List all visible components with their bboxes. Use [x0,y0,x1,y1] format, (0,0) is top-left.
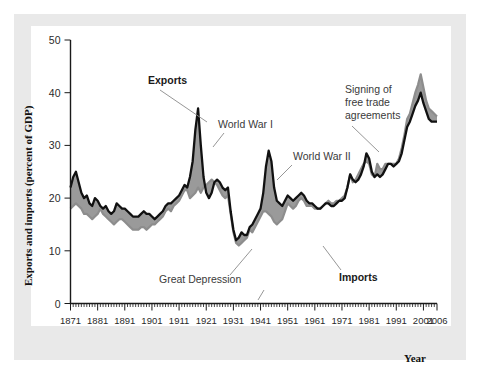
x-tick-label: 1971 [331,315,352,326]
x-tick-label: 1891 [114,315,135,326]
y-tick-label: 50 [49,34,61,46]
y-tick-label: 20 [49,192,61,204]
chart-svg: 01020304050 1871188118911901191119211931… [0,0,488,384]
annotation-free-trade-line1: Signing of [345,83,392,95]
x-tick-label: 1981 [359,315,380,326]
leader-free-trade [352,126,379,152]
leader-ww2 [277,165,292,180]
y-axis-title: Exports and imports (percent of GDP) [22,106,34,286]
annotation-free-trade-line2: free trade [345,96,390,108]
x-axis-title: Year [404,352,426,364]
y-tick-label: 0 [55,298,61,310]
x-tick-label: 1871 [60,315,81,326]
y-tick-label: 40 [49,87,61,99]
x-tick-label: 1961 [304,315,325,326]
annotation-ww1: World War I [218,118,273,130]
leader-great-depression [230,249,252,275]
leader-baseline-mark [258,290,264,300]
y-tick-label: 30 [49,139,61,151]
y-tick-group: 01020304050 [49,34,71,310]
x-tick-label: 1931 [223,315,244,326]
annotation-imports: Imports [339,271,378,283]
x-tick-label: 1901 [141,315,162,326]
x-tick-group: 1871188118911901191119211931194119511961… [60,304,448,326]
leader-imports [323,246,341,270]
leader-ww1 [213,133,224,147]
x-tick-label: 1991 [386,315,407,326]
annotation-great-depression: Great Depression [159,273,241,285]
x-tick-label: 1881 [87,315,108,326]
axes-layer: 01020304050 1871188118911901191119211931… [49,34,448,326]
x-tick-label: 1951 [277,315,298,326]
annotation-ww2: World War II [293,150,351,162]
figure-container: 01020304050 1871188118911901191119211931… [0,0,488,384]
x-tick-label: 1941 [250,315,271,326]
annotation-free-trade-line3: agreements [345,109,400,121]
x-tick-label: 2006 [426,315,447,326]
leader-exports [160,90,207,122]
y-tick-label: 10 [49,245,61,257]
x-tick-label: 1921 [196,315,217,326]
annotation-exports: Exports [148,74,187,86]
x-tick-label: 1911 [169,315,189,326]
